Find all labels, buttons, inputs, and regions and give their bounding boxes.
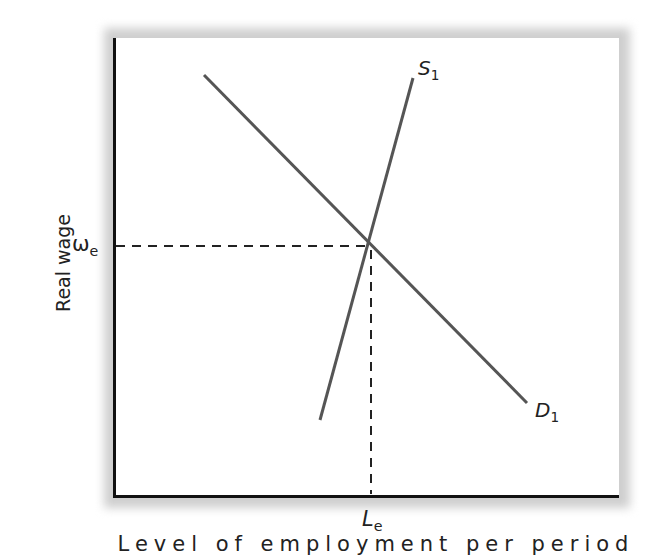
wage-symbol: ω bbox=[72, 232, 90, 256]
demand-curve-label: D1 bbox=[535, 398, 559, 425]
y-axis-title: Real wage bbox=[52, 214, 74, 312]
demand-symbol: D bbox=[535, 398, 550, 422]
x-axis-title: Level of employment per period bbox=[118, 532, 635, 556]
equilibrium-wage-label: ωe bbox=[72, 232, 98, 259]
wage-subscript: e bbox=[90, 243, 99, 259]
labor-symbol: L bbox=[362, 507, 374, 531]
supply-curve bbox=[320, 78, 413, 420]
demand-subscript: 1 bbox=[550, 409, 559, 425]
supply-subscript: 1 bbox=[431, 67, 440, 83]
supply-symbol: S bbox=[418, 56, 431, 80]
demand-curve bbox=[204, 75, 527, 403]
supply-curve-label: S1 bbox=[418, 56, 439, 83]
equilibrium-labor-label: Le bbox=[362, 507, 382, 534]
plot-svg bbox=[0, 0, 656, 557]
